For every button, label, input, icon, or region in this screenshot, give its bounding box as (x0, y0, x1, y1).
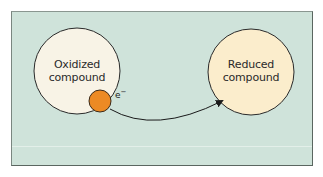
diagram-canvas (0, 0, 323, 177)
oxidized-compound-label: Oxidized compound (37, 58, 117, 84)
reduced-compound-label: Reduced compound (211, 58, 291, 84)
electron-charge: − (121, 88, 127, 96)
electron-transfer-arrow (110, 101, 222, 120)
oxidized-line2: compound (37, 71, 117, 84)
reduced-line1: Reduced (211, 58, 291, 71)
oxidized-line1: Oxidized (37, 58, 117, 71)
electron-node (89, 90, 111, 112)
reduced-line2: compound (211, 71, 291, 84)
electron-label: e− (115, 88, 126, 100)
